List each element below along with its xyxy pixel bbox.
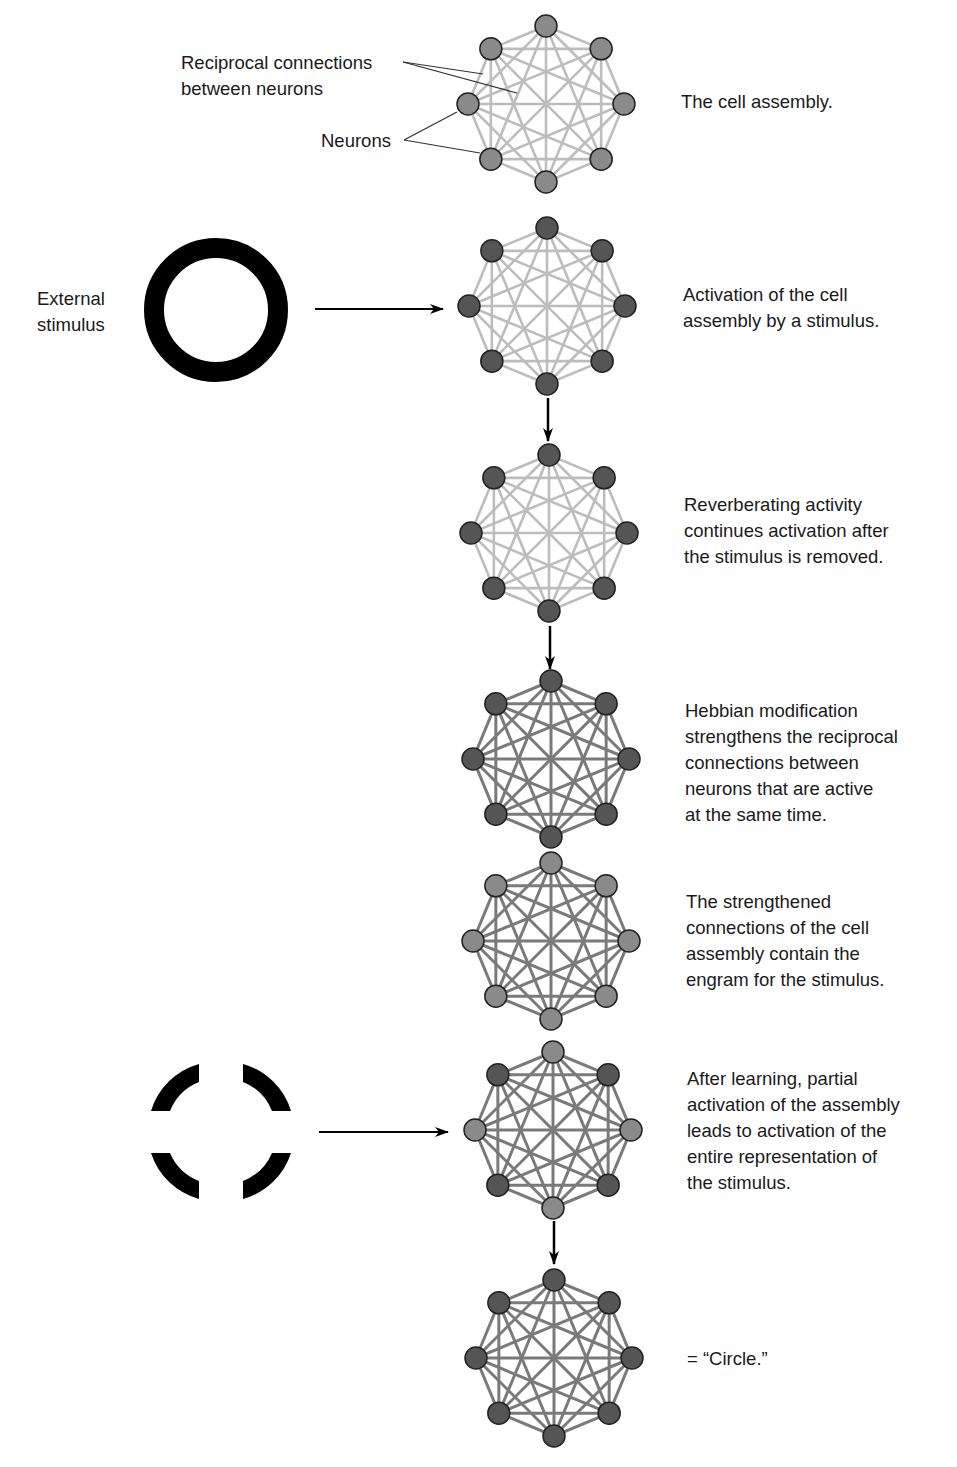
neuron-node (598, 1292, 620, 1314)
neuron-node (485, 803, 507, 825)
neuron-node (460, 522, 482, 544)
neuron-node (488, 1292, 510, 1314)
neuron-node (616, 522, 638, 544)
neuron-node (480, 38, 502, 60)
full-circle-stimulus (154, 248, 278, 372)
caption-activation: Activation of the cell assembly by a sti… (683, 282, 879, 334)
neuron-node (536, 373, 558, 395)
neuron-node (621, 1347, 643, 1369)
neuron-node (614, 295, 636, 317)
cell-assembly-circle (465, 1269, 643, 1447)
neuron-node (483, 577, 505, 599)
neuron-node (591, 350, 613, 372)
neuron-node (593, 467, 615, 489)
neuron-node (595, 803, 617, 825)
neuron-node (590, 38, 612, 60)
cell-assembly-activation (458, 217, 636, 395)
neuron-node (535, 15, 557, 37)
neuron-node (535, 171, 557, 193)
cell-assembly-hebbian (462, 670, 640, 848)
neuron-node (590, 148, 612, 170)
neuron-node (542, 1041, 564, 1063)
neuron-node (540, 670, 562, 692)
neuron-node (485, 985, 507, 1007)
external-stimulus-label: External stimulus (37, 286, 105, 338)
neuron-node (595, 985, 617, 1007)
neuron-node (458, 295, 480, 317)
neuron-node (591, 240, 613, 262)
cell-assembly-partial (464, 1041, 642, 1219)
neuron-node (598, 1402, 620, 1424)
neuron-node (485, 693, 507, 715)
caption-hebbian: Hebbian modification strengthens the rec… (685, 698, 898, 828)
neuron-node (540, 1008, 562, 1030)
caption-cell-assembly: The cell assembly. (681, 89, 833, 115)
neuron-node (481, 240, 503, 262)
neuron-node (593, 577, 615, 599)
neuron-node (597, 1174, 619, 1196)
neuron-node (540, 826, 562, 848)
caption-partial: After learning, partial activation of th… (687, 1066, 900, 1196)
neuron-node (462, 748, 484, 770)
neuron-node (487, 1064, 509, 1086)
neuron-node (618, 748, 640, 770)
cell-assembly-reverberation (460, 444, 638, 622)
neuron-node (485, 875, 507, 897)
cell-assembly-engram (462, 852, 640, 1030)
neuron-node (462, 930, 484, 952)
cell-assembly-cell-assembly (457, 15, 635, 193)
neurons-label: Neurons (321, 128, 391, 154)
neuron-node (543, 1425, 565, 1447)
caption-circle: = “Circle.” (687, 1346, 768, 1372)
neuron-node (481, 350, 503, 372)
neuron-node (543, 1269, 565, 1291)
neuron-node (538, 600, 560, 622)
neuron-node (488, 1402, 510, 1424)
neuron-node (464, 1119, 486, 1141)
caption-engram: The strengthened connections of the cell… (686, 889, 884, 993)
neuron-node (487, 1174, 509, 1196)
neuron-node (613, 93, 635, 115)
neuron-node (540, 852, 562, 874)
neuron-node (457, 93, 479, 115)
neuron-node (597, 1064, 619, 1086)
reciprocal-connections-label: Reciprocal connections between neurons (181, 50, 372, 102)
neuron-node (483, 467, 505, 489)
caption-reverberation: Reverberating activity continues activat… (684, 492, 889, 570)
neuron-node (542, 1197, 564, 1219)
neuron-node (595, 875, 617, 897)
neuron-node (465, 1347, 487, 1369)
partial-circle-stimulus (151, 1064, 291, 1199)
neuron-node (538, 444, 560, 466)
neuron-node (620, 1119, 642, 1141)
neuron-node (618, 930, 640, 952)
neuron-node (536, 217, 558, 239)
neuron-node (595, 693, 617, 715)
neuron-node (480, 148, 502, 170)
